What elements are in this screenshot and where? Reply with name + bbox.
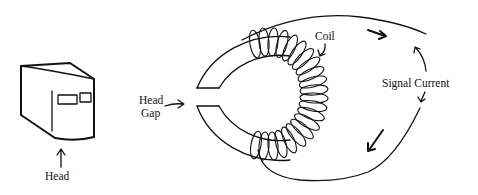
current-arrow-bottom (368, 130, 383, 151)
recording-head-diagram: Head Head Gap (0, 0, 478, 195)
coil-annotation: Coil (315, 30, 335, 56)
signal-current-label: Signal Current (382, 77, 450, 90)
head-gap-label-line1: Head (139, 94, 164, 106)
current-arrow-top (368, 30, 386, 39)
coil-label: Coil (315, 30, 335, 42)
head-label: Head (45, 170, 70, 182)
head-gap-annotation: Head Gap (139, 94, 184, 120)
head-drawing: Head (21, 63, 94, 182)
signal-current-annotation: Signal Current (382, 47, 450, 102)
head-gap-label-line2: Gap (141, 107, 160, 120)
